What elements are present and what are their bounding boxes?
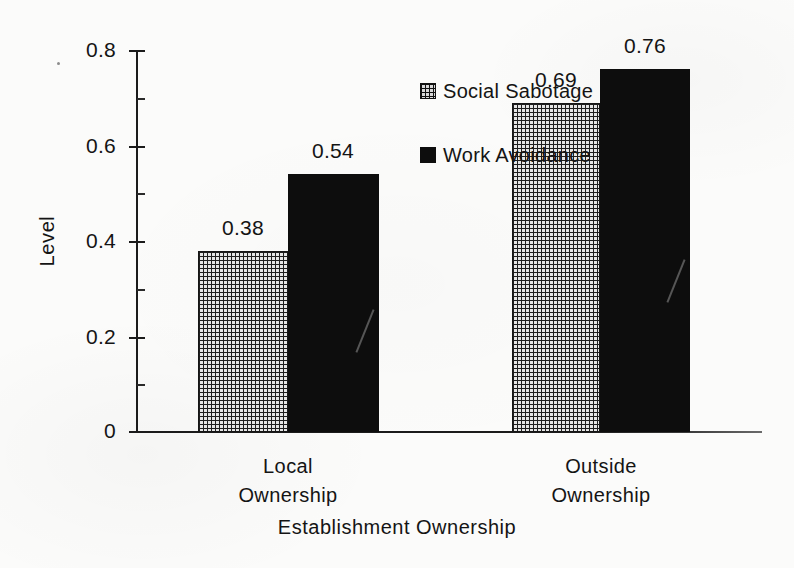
plot-area: 0.8 0.6 0.4 0.2 0 0.38 0.54 0.69 0. — [136, 50, 762, 432]
y-tick-label-0.2: 0.2 — [86, 325, 116, 349]
x-category-label-local-line2: Ownership — [238, 481, 337, 510]
y-tick-label-0: 0 — [104, 419, 116, 443]
x-category-label-outside-line2: Ownership — [551, 481, 650, 510]
x-category-label-outside: Outside Ownership — [551, 452, 650, 510]
y-tick-minor-0.5 — [137, 193, 145, 195]
y-tick-label-0.6: 0.6 — [86, 134, 116, 158]
y-tick-minor-0.3 — [137, 289, 145, 291]
x-axis-title: Establishment Ownership — [0, 516, 794, 539]
y-tick-label-0.4: 0.4 — [86, 229, 116, 253]
y-tick-major-0: 0 — [129, 431, 145, 433]
y-tick-minor-0.1 — [137, 384, 145, 386]
x-category-label-local-line1: Local — [238, 452, 337, 481]
y-tick-major-0.4: 0.4 — [129, 241, 145, 243]
x-category-label-local: Local Ownership — [238, 452, 337, 510]
y-axis-title: Level — [34, 50, 60, 432]
legend-item-work-avoidance[interactable]: Work Avoidance — [420, 142, 593, 168]
figure-canvas: Level 0.8 0.6 0.4 0.2 0 0.38 0.54 — [0, 0, 794, 568]
bar-social-sabotage-local[interactable] — [198, 251, 288, 433]
hatch-swatch-icon — [420, 83, 436, 99]
x-category-label-outside-line1: Outside — [551, 452, 650, 481]
legend-label-social-sabotage: Social Sabotage — [443, 80, 593, 103]
y-tick-minor-0.7 — [137, 98, 145, 100]
legend: Social Sabotage Work Avoidance — [420, 78, 593, 206]
y-tick-major-0.6: 0.6 — [129, 146, 145, 148]
bar-work-avoidance-outside[interactable] — [600, 69, 690, 432]
bar-value-work-avoidance-local: 0.54 — [312, 139, 354, 163]
y-tick-major-0.2: 0.2 — [129, 337, 145, 339]
bar-work-avoidance-local[interactable] — [288, 174, 379, 432]
y-tick-label-0.8: 0.8 — [86, 38, 116, 62]
bar-value-work-avoidance-outside: 0.76 — [624, 34, 666, 58]
bar-value-social-sabotage-local: 0.38 — [222, 216, 264, 240]
y-tick-major-0.8: 0.8 — [129, 50, 145, 52]
legend-item-social-sabotage[interactable]: Social Sabotage — [420, 78, 593, 104]
solid-swatch-icon — [420, 147, 436, 163]
legend-label-work-avoidance: Work Avoidance — [443, 144, 591, 167]
